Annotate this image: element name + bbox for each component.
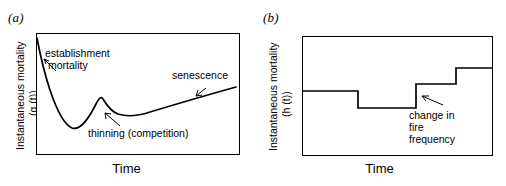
panel-a-annotation-senescence: senescence — [172, 70, 228, 82]
panel-b-step-hazard-curve — [302, 68, 493, 108]
panel-a: (a) Instantaneous mortality (q (t)) esta… — [0, 0, 253, 186]
panel-a-x-axis-label: Time — [0, 161, 253, 176]
panel-a-annotation-establishment-line2: mortality — [48, 60, 88, 72]
panel-b-x-axis-label: Time — [253, 161, 506, 176]
panel-b-annotation-fire-frequency-line1: change in — [409, 110, 455, 122]
panel-a-annotation-thinning: thinning (competition) — [88, 128, 188, 140]
panel-b-plot-overlay — [253, 0, 506, 186]
panel-b-annotation-fire-frequency-line3: frequency — [409, 134, 455, 146]
panel-a-leader-thinning — [105, 113, 120, 126]
panel-b-annotation-fire-frequency-line2: fire — [409, 122, 424, 134]
panel-b: (b) Instantaneous mortality (h (t)) chan… — [253, 0, 506, 186]
panel-a-plot-overlay — [0, 0, 253, 186]
panel-a-annotation-establishment-line1: establishment — [45, 48, 110, 60]
figure-root: (a) Instantaneous mortality (q (t)) esta… — [0, 0, 506, 186]
